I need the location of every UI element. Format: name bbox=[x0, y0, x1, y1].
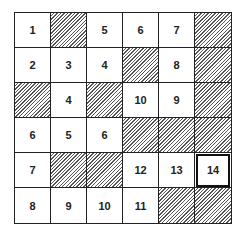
hatched-cell bbox=[195, 83, 231, 118]
number-cell: 4 bbox=[87, 48, 123, 83]
number-cell: 8 bbox=[15, 188, 51, 223]
number-grid: 1567234841096567121314891011 bbox=[14, 12, 232, 224]
hatched-cell bbox=[51, 13, 87, 48]
number-cell: 8 bbox=[159, 48, 195, 83]
hatched-cell bbox=[195, 48, 231, 83]
number-cell: 1 bbox=[15, 13, 51, 48]
number-cell: 7 bbox=[159, 13, 195, 48]
number-cell: 12 bbox=[123, 153, 159, 188]
number-cell: 11 bbox=[123, 188, 159, 223]
hatched-cell bbox=[159, 188, 195, 223]
number-cell: 5 bbox=[87, 13, 123, 48]
hatched-cell bbox=[195, 118, 231, 153]
hatched-cell bbox=[195, 188, 231, 223]
number-cell: 10 bbox=[123, 83, 159, 118]
number-cell: 2 bbox=[15, 48, 51, 83]
number-cell: 10 bbox=[87, 188, 123, 223]
number-cell: 6 bbox=[87, 118, 123, 153]
number-cell: 5 bbox=[51, 118, 87, 153]
number-cell: 6 bbox=[123, 13, 159, 48]
hatched-cell bbox=[15, 83, 51, 118]
hatched-cell bbox=[159, 118, 195, 153]
number-cell: 3 bbox=[51, 48, 87, 83]
number-cell: 9 bbox=[159, 83, 195, 118]
number-cell: 6 bbox=[15, 118, 51, 153]
number-cell: 13 bbox=[159, 153, 195, 188]
hatched-cell bbox=[195, 13, 231, 48]
hatched-cell bbox=[51, 153, 87, 188]
number-cell: 4 bbox=[51, 83, 87, 118]
number-cell: 9 bbox=[51, 188, 87, 223]
number-cell: 7 bbox=[15, 153, 51, 188]
highlighted-cell: 14 bbox=[195, 153, 231, 188]
hatched-cell bbox=[123, 48, 159, 83]
hatched-cell bbox=[123, 118, 159, 153]
hatched-cell bbox=[87, 83, 123, 118]
hatched-cell bbox=[87, 153, 123, 188]
